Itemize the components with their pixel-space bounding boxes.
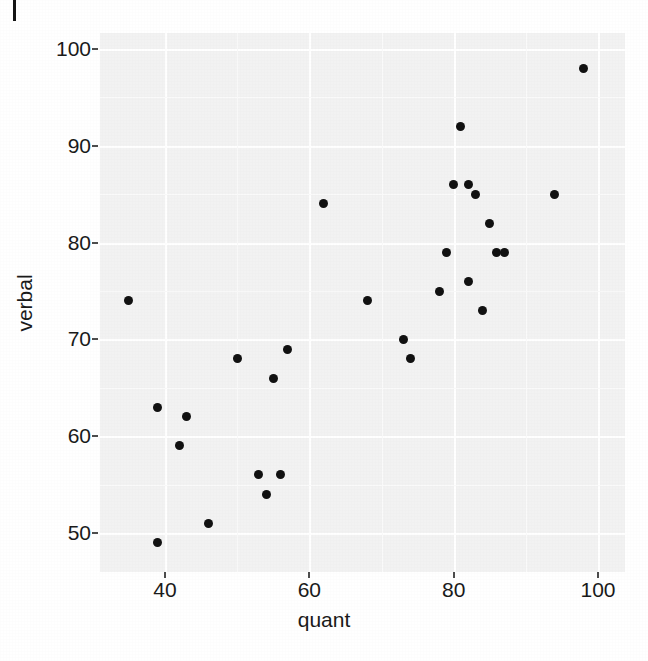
y-tick-label: 70 bbox=[68, 327, 91, 351]
data-point bbox=[500, 248, 509, 257]
gridline-h-minor bbox=[100, 485, 625, 486]
data-point bbox=[550, 190, 559, 199]
data-point bbox=[399, 335, 408, 344]
data-point bbox=[485, 219, 494, 228]
gridline-v-major bbox=[165, 33, 167, 572]
y-tick-mark bbox=[92, 145, 98, 147]
x-axis-title-text: quant bbox=[0, 608, 648, 632]
plot-panel bbox=[100, 33, 625, 572]
data-point bbox=[283, 345, 292, 354]
gridline-h-major bbox=[100, 243, 625, 245]
y-tick-mark bbox=[92, 338, 98, 340]
data-point bbox=[319, 199, 328, 208]
x-tick-label: 40 bbox=[153, 578, 176, 602]
y-tick-mark bbox=[92, 48, 98, 50]
gridline-v-minor bbox=[526, 33, 527, 572]
y-tick-label: 50 bbox=[68, 521, 91, 545]
data-point bbox=[363, 296, 372, 305]
gridline-h-major bbox=[100, 533, 625, 535]
gridline-h-minor bbox=[100, 291, 625, 292]
data-point bbox=[262, 490, 271, 499]
data-point bbox=[175, 441, 184, 450]
gridline-h-major bbox=[100, 436, 625, 438]
y-tick-mark bbox=[92, 435, 98, 437]
gridline-h-major bbox=[100, 49, 625, 51]
y-tick-label: 100 bbox=[56, 37, 91, 61]
x-tick-label: 80 bbox=[442, 578, 465, 602]
data-point bbox=[478, 306, 487, 315]
y-tick-mark bbox=[92, 242, 98, 244]
x-tick-label: 60 bbox=[298, 578, 321, 602]
data-point bbox=[464, 180, 473, 189]
data-point bbox=[464, 277, 473, 286]
scatter-plot-figure: 5060708090100 406080100 verbal quant bbox=[0, 0, 648, 661]
y-axis-title: verbal bbox=[8, 0, 42, 605]
data-point bbox=[471, 190, 480, 199]
data-point bbox=[153, 403, 162, 412]
y-tick-label: 90 bbox=[68, 134, 91, 158]
y-tick-label: 80 bbox=[68, 231, 91, 255]
data-point bbox=[254, 470, 263, 479]
data-point bbox=[449, 180, 458, 189]
gridline-v-major bbox=[598, 33, 600, 572]
data-point bbox=[204, 519, 213, 528]
gridline-v-minor bbox=[237, 33, 238, 572]
data-point bbox=[442, 248, 451, 257]
gridline-v-minor bbox=[382, 33, 383, 572]
gridline-h-minor bbox=[100, 97, 625, 98]
gridline-h-major bbox=[100, 146, 625, 148]
y-axis-title-text: verbal bbox=[13, 274, 37, 331]
gridline-v-major bbox=[454, 33, 456, 572]
gridline-h-minor bbox=[100, 388, 625, 389]
y-tick-mark bbox=[92, 532, 98, 534]
gridline-v-major bbox=[309, 33, 311, 572]
data-point bbox=[269, 374, 278, 383]
data-point bbox=[406, 354, 415, 363]
data-point bbox=[435, 287, 444, 296]
data-point bbox=[579, 64, 588, 73]
data-point bbox=[124, 296, 133, 305]
y-tick-label: 60 bbox=[68, 424, 91, 448]
data-point bbox=[153, 538, 162, 547]
data-point bbox=[276, 470, 285, 479]
data-point bbox=[233, 354, 242, 363]
data-point bbox=[182, 412, 191, 421]
gridline-h-minor bbox=[100, 194, 625, 195]
data-point bbox=[456, 122, 465, 131]
x-tick-label: 100 bbox=[580, 578, 615, 602]
gridline-h-major bbox=[100, 339, 625, 341]
